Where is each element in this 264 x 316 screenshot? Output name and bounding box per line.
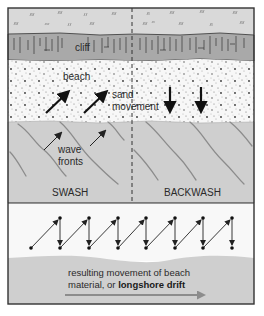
bottom-panel: resulting movement of beach material, or…: [8, 203, 254, 304]
drift-caption-line2: material, or longshore drift: [68, 279, 186, 290]
cliff-label: cliff: [75, 42, 90, 53]
bottom-beach-area: [8, 203, 254, 261]
top-panel: cliff beach sand movement wave fronts SW…: [8, 8, 254, 203]
sand-movement-label-line1: sand: [112, 89, 134, 100]
beach-label: beach: [63, 71, 90, 82]
swash-label: SWASH: [52, 187, 88, 198]
wave-fronts-label-line1: wave: [57, 144, 82, 155]
sand-movement-label-line2: movement: [112, 101, 159, 112]
land-surface-layer: [8, 8, 254, 35]
wave-fronts-label-line2: fronts: [58, 156, 83, 167]
drift-caption-bold: longshore drift: [118, 279, 186, 290]
backwash-label: BACKWASH: [164, 187, 221, 198]
drift-caption-line1: resulting movement of beach: [68, 267, 190, 278]
cliff-layer: [8, 33, 254, 61]
longshore-drift-diagram: cliff beach sand movement wave fronts SW…: [0, 0, 264, 316]
drift-caption-plain: material, or: [68, 279, 118, 290]
